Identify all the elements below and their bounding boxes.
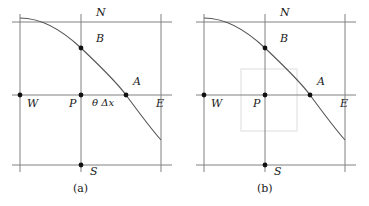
panel-caption-a: (a) (73, 183, 88, 194)
node-dot-A (124, 93, 129, 98)
node-label-W: W (211, 98, 222, 109)
annotation-theta-delta-x: θ Δx (92, 98, 114, 108)
node-dot-W (202, 93, 207, 98)
node-dot-B (79, 46, 84, 51)
node-label-P: P (69, 98, 76, 109)
figure-container: N B A W P E S θ Δx (a) (0, 0, 369, 206)
node-label-N: N (96, 7, 106, 18)
node-label-B: B (280, 33, 288, 44)
node-label-N: N (280, 7, 290, 18)
panel-a: N B A W P E S θ Δx (a) (0, 0, 185, 206)
node-label-E: E (156, 98, 164, 109)
node-dot-S (79, 163, 84, 168)
node-label-A: A (317, 76, 325, 87)
node-dot-B (263, 46, 268, 51)
panel-b: N B A W P E S (b) (184, 0, 369, 206)
node-label-W: W (27, 98, 38, 109)
node-dot-A (308, 93, 313, 98)
node-label-B: B (96, 33, 104, 44)
panel-caption-b: (b) (257, 183, 273, 194)
grid-vertical-lines (20, 14, 161, 172)
node-label-P: P (253, 98, 260, 109)
node-label-S: S (274, 166, 282, 177)
node-dot-W (18, 93, 23, 98)
node-dot-S (263, 163, 268, 168)
control-volume-box (241, 69, 297, 131)
node-dot-P (79, 93, 84, 98)
grid-horizontal-lines (12, 22, 172, 165)
node-label-S: S (90, 166, 98, 177)
node-label-E: E (340, 98, 348, 109)
node-dot-P (263, 93, 268, 98)
node-label-A: A (133, 76, 141, 87)
